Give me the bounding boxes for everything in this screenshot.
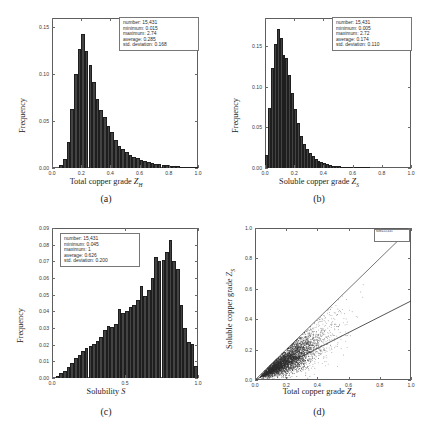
y-tick-label-c: 0.03: [31, 325, 49, 331]
x-tick-label-b: 1.0: [407, 170, 414, 176]
y-tick-c: [195, 278, 198, 279]
y-tick-c: [52, 228, 55, 229]
legend-sample-icon: [375, 241, 410, 242]
y-tick-d: [408, 319, 411, 320]
histogram-bar: [367, 167, 370, 168]
x-tick-d: [317, 228, 318, 231]
x-tick-label-c: 0.5: [121, 380, 128, 386]
x-tick-label-a: 1.0: [194, 170, 201, 176]
stat-std-a: std. deviation: 0.168: [123, 42, 195, 48]
scatter-legend-d: size=15,431: [374, 229, 410, 242]
x-tick-label-d: 1.0: [407, 382, 414, 388]
x-tick-label-b: 0.0: [261, 170, 268, 176]
x-tick-c: [198, 228, 199, 231]
x-tick-label-d: 0.0: [251, 382, 258, 388]
y-tick-d: [255, 350, 258, 351]
caption-b: (b): [313, 193, 325, 204]
x-tick-a: [81, 18, 82, 21]
y-tick-d: [408, 380, 411, 381]
y-tick-a: [52, 121, 55, 122]
y-tick-b: [265, 168, 268, 169]
y-tick-a: [195, 74, 198, 75]
y-tick-a: [52, 27, 55, 28]
panel-c: number: 15,431 minimum: 0.045 maximum: 1…: [0, 214, 212, 428]
plot-area-c: number: 15,431 minimum: 0.045 maximum: 1…: [52, 228, 198, 378]
x-tick-a: [140, 165, 141, 168]
caption-d: (d): [313, 406, 325, 417]
y-tick-label-c: 0.07: [31, 258, 49, 264]
y-tick-c: [195, 228, 198, 229]
y-tick-b: [265, 127, 268, 128]
y-tick-label-b: 0.10: [244, 84, 262, 90]
y-tick-b: [408, 127, 411, 128]
y-tick-a: [52, 74, 55, 75]
y-axis-title-c: Frequency: [16, 308, 25, 343]
x-tick-a: [169, 165, 170, 168]
x-tick-d: [349, 377, 350, 380]
y-tick-a: [52, 168, 55, 169]
x-tick-d: [286, 377, 287, 380]
y-tick-c: [52, 295, 55, 296]
y-tick-d: [255, 380, 258, 381]
x-tick-label-a: 0.0: [48, 170, 55, 176]
scatter-legend-label: size=15,431: [375, 230, 409, 234]
panel-b: number: 15,431 minimum: 0.005 maximum: 2…: [213, 0, 425, 214]
stat-std-c: std. deviation: 0.200: [64, 258, 136, 264]
y-tick-c: [52, 311, 55, 312]
x-tick-a: [81, 165, 82, 168]
x-tick-b: [294, 18, 295, 21]
y-tick-d: [255, 319, 258, 320]
stats-legend-b: number: 15,431 minimum: 0.005 maximum: 2…: [332, 17, 412, 51]
x-tick-b: [323, 18, 324, 21]
x-tick-c: [125, 228, 126, 231]
x-axis-title-c: Solubility S: [87, 387, 126, 396]
y-tick-label-d: 1.0: [234, 225, 252, 231]
y-tick-label-c: 0.01: [31, 358, 49, 364]
panel-a: number: 15,431 minimum: 0.015 maximum: 2…: [0, 0, 212, 214]
y-tick-label-a: 0.05: [31, 118, 49, 124]
x-tick-c: [125, 375, 126, 378]
y-tick-d: [408, 289, 411, 290]
y-tick-label-c: 0.02: [31, 342, 49, 348]
x-tick-label-a: 0.8: [165, 170, 172, 176]
y-tick-c: [52, 345, 55, 346]
x-tick-label-c: 1.0: [194, 380, 201, 386]
stats-legend-a: number: 15,431 minimum: 0.015 maximum: 2…: [119, 17, 199, 51]
y-tick-b: [408, 87, 411, 88]
y-tick-c: [195, 295, 198, 296]
x-tick-label-a: 0.2: [78, 170, 85, 176]
x-tick-label-b: 0.6: [349, 170, 356, 176]
plot-area-d: size=15,431 0.00.20.40.60.81.00.00.20.40…: [255, 228, 411, 380]
y-axis-title-b: Frequency: [231, 98, 240, 133]
x-tick-d: [411, 228, 412, 231]
x-tick-b: [353, 165, 354, 168]
y-axis-title-d: Soluble copper grade ZS: [225, 269, 236, 349]
x-tick-label-b: 0.2: [291, 170, 298, 176]
y-tick-d: [255, 258, 258, 259]
x-tick-a: [110, 18, 111, 21]
x-axis-title-a: Total copper grade ZH: [70, 177, 143, 188]
x-tick-label-c: 0.0: [48, 380, 55, 386]
y-tick-label-a: 0.00: [31, 165, 49, 171]
x-tick-b: [323, 165, 324, 168]
x-tick-d: [286, 228, 287, 231]
y-tick-c: [195, 378, 198, 379]
y-tick-c: [195, 361, 198, 362]
y-tick-c: [195, 345, 198, 346]
x-tick-d: [349, 228, 350, 231]
y-tick-c: [195, 311, 198, 312]
y-tick-label-c: 0.05: [31, 292, 49, 298]
plot-area-a: number: 15,431 minimum: 0.015 maximum: 2…: [52, 18, 198, 168]
y-tick-d: [408, 350, 411, 351]
x-tick-c: [198, 375, 199, 378]
y-tick-label-d: 0.4: [234, 316, 252, 322]
x-tick-b: [411, 165, 412, 168]
upper-bound-line: [255, 228, 411, 380]
y-tick-c: [52, 361, 55, 362]
y-tick-c: [52, 245, 55, 246]
y-axis-title-a: Frequency: [18, 98, 27, 133]
lower-trend-line: [255, 301, 411, 380]
y-tick-label-c: 0.04: [31, 308, 49, 314]
plot-area-b: number: 15,431 minimum: 0.005 maximum: 2…: [265, 18, 411, 168]
x-tick-d: [411, 377, 412, 380]
